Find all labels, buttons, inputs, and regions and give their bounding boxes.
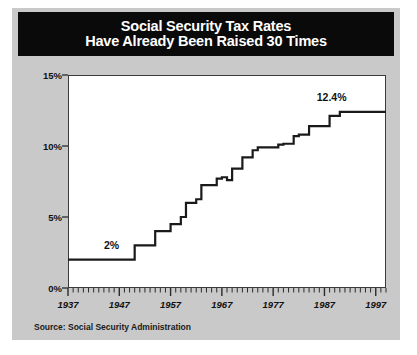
end-value-label: 12.4% (317, 91, 347, 103)
x-axis-tick-label: 1997 (365, 299, 386, 310)
x-axis-tick-label: 1987 (314, 299, 335, 310)
x-axis-tick-label: 1967 (211, 299, 232, 310)
source-note: Source: Social Security Administration (34, 322, 191, 332)
chart-figure: Social Security Tax Rates Have Already B… (12, 8, 400, 340)
x-axis-tick-label: 1937 (57, 299, 78, 310)
x-axis-tick-label: 1977 (263, 299, 284, 310)
start-value-label: 2% (104, 239, 119, 251)
x-axis-tick-label: 1947 (109, 299, 130, 310)
x-axis-labels: 19371947195719671977198719972%12.4% (12, 8, 400, 340)
x-axis-tick-label: 1957 (160, 299, 181, 310)
